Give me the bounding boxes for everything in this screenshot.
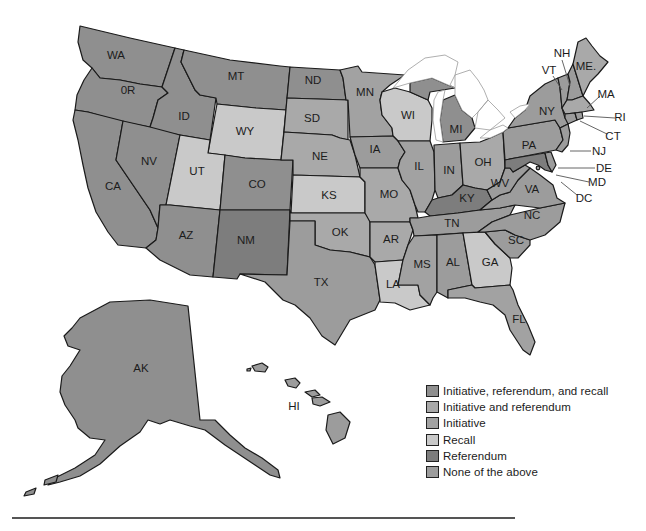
bottom-rule	[12, 517, 515, 519]
label-IN: IN	[443, 164, 455, 176]
label-AL: AL	[446, 256, 461, 268]
label-FL: FL	[512, 313, 526, 325]
label-NE: NE	[312, 150, 328, 162]
label-DE: DE	[596, 162, 612, 174]
label-NY: NY	[539, 105, 555, 117]
label-CO: CO	[248, 178, 265, 190]
legend-item-ir: Initiative and referendum	[426, 399, 608, 415]
label-KY: KY	[459, 192, 475, 204]
label-IL: IL	[414, 160, 424, 172]
label-MD: MD	[588, 176, 606, 188]
legend-swatch-ir	[426, 401, 439, 413]
label-MS: MS	[413, 258, 431, 270]
state-AK[interactable]	[48, 300, 280, 485]
label-MA: MA	[597, 88, 615, 100]
label-WI: WI	[401, 109, 415, 121]
label-AR: AR	[383, 233, 399, 245]
legend-item-initiative: Initiative	[426, 415, 608, 431]
label-WA: WA	[107, 49, 125, 61]
label-IA: IA	[370, 143, 381, 155]
label-NJ: NJ	[592, 145, 606, 157]
label-NC: NC	[524, 209, 541, 221]
legend-label: Initiative	[443, 417, 486, 429]
label-LA: LA	[386, 278, 400, 290]
label-RI: RI	[614, 111, 626, 123]
label-MO: MO	[380, 188, 399, 200]
legend-label: Referendum	[443, 450, 507, 462]
legend-label: None of the above	[443, 466, 538, 478]
label-MI: MI	[450, 123, 463, 135]
label-KS: KS	[321, 189, 337, 201]
legend-item-irr: Initiative, referendum, and recall	[426, 383, 608, 399]
label-UT: UT	[189, 165, 204, 177]
label-MT: MT	[228, 70, 245, 82]
legend-swatch-irr	[426, 385, 439, 397]
label-SC: SC	[508, 234, 524, 246]
legend-item-referendum: Referendum	[426, 448, 608, 464]
legend-swatch-recall	[426, 434, 439, 446]
state-DC[interactable]	[536, 166, 540, 170]
legend-label: Initiative and referendum	[443, 401, 571, 413]
legend-label: Initiative, referendum, and recall	[443, 385, 608, 397]
legend-item-none: None of the above	[426, 464, 608, 480]
label-SD: SD	[304, 112, 320, 124]
label-TX: TX	[314, 276, 329, 288]
label-PA: PA	[522, 139, 537, 151]
label-NM: NM	[237, 234, 255, 246]
legend-swatch-referendum	[426, 450, 439, 462]
label-WY: WY	[236, 125, 255, 137]
label-MN: MN	[356, 86, 374, 98]
label-VA: VA	[525, 183, 540, 195]
label-HI: HI	[288, 400, 300, 412]
label-GA: GA	[482, 256, 499, 268]
label-VT: VT	[542, 64, 557, 76]
label-WV: WV	[491, 177, 510, 189]
label-OH: OH	[474, 156, 491, 168]
label-ID: ID	[178, 110, 190, 122]
label-AZ: AZ	[179, 229, 194, 241]
label-CA: CA	[105, 180, 121, 192]
label-NV: NV	[141, 155, 157, 167]
legend-swatch-initiative	[426, 417, 439, 429]
label-AK: AK	[133, 362, 149, 374]
label-ME: ME.	[576, 60, 596, 72]
legend-item-recall: Recall	[426, 432, 608, 448]
label-DC: DC	[576, 192, 593, 204]
state-RI[interactable]	[575, 112, 583, 120]
legend-swatch-none	[426, 466, 439, 478]
label-ND: ND	[305, 74, 322, 86]
legend: Initiative, referendum, and recall Initi…	[426, 383, 608, 480]
label-CT: CT	[605, 130, 620, 142]
label-TN: TN	[444, 217, 459, 229]
legend-label: Recall	[443, 434, 475, 446]
label-OK: OK	[332, 226, 349, 238]
label-NH: NH	[554, 47, 571, 59]
label-OR: 0R	[121, 84, 136, 96]
alaska-islands[interactable]	[24, 475, 58, 496]
